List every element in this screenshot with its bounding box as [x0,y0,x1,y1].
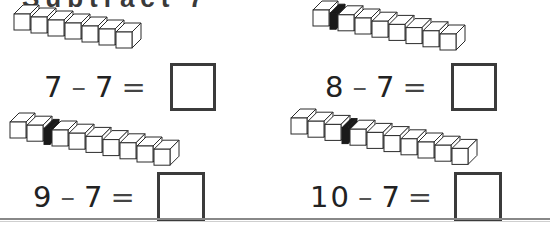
equals-sign-3: = [104,180,142,214]
minus-sign-1: – [64,70,95,104]
problem-4: 10 – 7 = [275,108,550,223]
problem-2: 8 – 7 = [275,0,550,113]
equation-3: 9 – 7 = [0,175,308,219]
subtrahend-4: 7 [381,180,401,214]
minuend-1: 7 [44,70,64,104]
subtrahend-1: 7 [95,70,115,104]
cube-train-2-svg [275,0,550,72]
equation-4: 10 – 7 = [275,175,550,219]
equals-sign-2: = [396,70,434,104]
minus-sign-4: – [351,180,382,214]
minus-sign-3: – [53,180,84,214]
answer-box-4[interactable] [454,172,502,222]
subtrahend-3: 7 [84,180,104,214]
footer-divider-secondary [0,221,550,222]
cube-train-3 [0,108,275,180]
problem-1: 7 – 7 = [0,0,275,113]
equals-sign-4: = [402,180,440,214]
cube-train-1-svg [0,0,275,72]
footer-divider [0,218,550,220]
answer-box-3[interactable] [157,172,205,222]
subtrahend-2: 7 [376,70,396,104]
answer-box-1[interactable] [170,63,216,111]
equation-2: 8 – 7 = [275,65,550,109]
minus-sign-2: – [345,70,376,104]
equals-sign-1: = [115,70,153,104]
minuend-3: 9 [33,180,53,214]
equation-1: 7 – 7 = [0,65,319,109]
answer-box-2[interactable] [451,63,497,111]
cube-train-4 [275,108,550,180]
minuend-4: 10 [310,180,351,214]
cube-train-1 [0,0,275,72]
cube-train-2 [275,0,550,72]
cube-train-4-svg [275,108,550,180]
worksheet-page: Subtract 7 7 – 7 = 8 – 7 = 9 [0,0,550,226]
cube-train-3-svg [0,108,275,180]
problem-3: 9 – 7 = [0,108,275,223]
minuend-2: 8 [325,70,345,104]
